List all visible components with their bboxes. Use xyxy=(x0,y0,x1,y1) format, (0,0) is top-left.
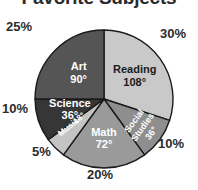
svg-text:108°: 108° xyxy=(123,76,146,88)
svg-text:Reading: Reading xyxy=(113,63,156,75)
pie-slice-art[interactable] xyxy=(35,30,104,99)
svg-text:Science: Science xyxy=(49,97,91,109)
svg-text:Math: Math xyxy=(91,126,117,138)
percent-label-math: 20% xyxy=(87,167,113,182)
pie-slice-label-art: Art90° xyxy=(70,60,87,85)
svg-text:36°: 36° xyxy=(62,109,79,121)
percent-label-science: 10% xyxy=(2,101,28,116)
percent-label-art: 25% xyxy=(6,19,32,34)
percent-label-music: 5% xyxy=(32,144,51,159)
svg-text:Art: Art xyxy=(71,60,87,72)
svg-text:72°: 72° xyxy=(96,138,113,150)
percent-label-social-studies: 10% xyxy=(158,136,184,151)
chart-canvas: Favorite Subjects Reading108°SocialStudi… xyxy=(0,0,198,190)
percent-label-reading: 30% xyxy=(160,26,186,41)
svg-text:90°: 90° xyxy=(70,73,87,85)
